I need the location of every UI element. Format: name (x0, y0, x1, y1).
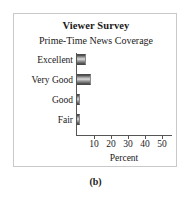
category-label-excellent: Excellent (3, 55, 73, 65)
category-label-fair: Fair (3, 115, 73, 125)
category-label-good: Good (3, 95, 73, 105)
bar-fair (77, 114, 80, 125)
bar-excellent (77, 54, 86, 65)
bar-good (77, 94, 80, 105)
category-label-very-good: Very Good (3, 75, 73, 85)
chart-subtitle: Prime-Time News Coverage (14, 35, 178, 46)
x-tick-label-50: 50 (151, 139, 173, 149)
chart-title: Viewer Survey (14, 20, 178, 31)
figure-caption: (b) (0, 176, 191, 187)
x-axis-line (76, 135, 172, 136)
bar-very-good (77, 74, 91, 85)
x-axis-title: Percent (76, 153, 172, 163)
figure-container: Viewer Survey Prime-Time News Coverage E… (0, 0, 191, 199)
plot-area: Excellent Very Good Good Fair 10 20 30 4… (14, 53, 178, 148)
chart-frame: Viewer Survey Prime-Time News Coverage E… (13, 13, 177, 167)
